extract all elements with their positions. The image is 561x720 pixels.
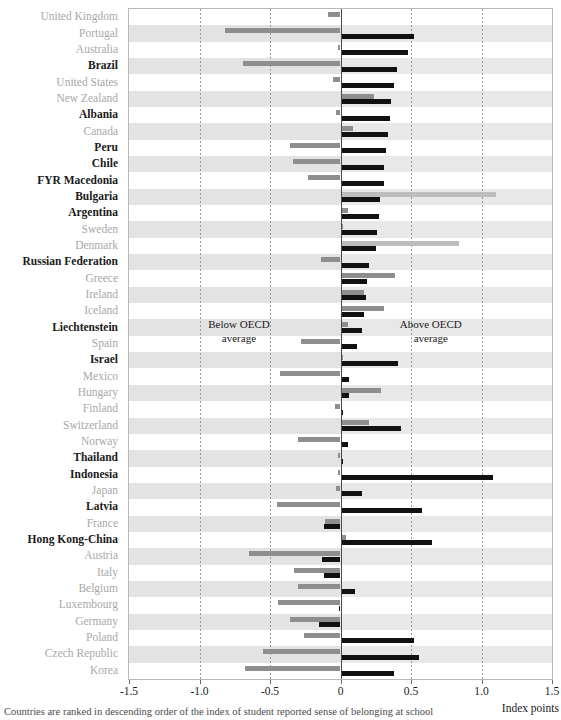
bar-black bbox=[322, 557, 340, 562]
bar-grey bbox=[225, 28, 341, 33]
bar-grey bbox=[293, 159, 341, 164]
bar-black bbox=[341, 279, 368, 284]
bar-grey bbox=[325, 519, 341, 524]
axis-tick-label: 1.5 bbox=[545, 685, 559, 697]
bar-grey bbox=[280, 371, 341, 376]
category-label: Japan bbox=[92, 482, 118, 498]
row-band-right bbox=[341, 581, 553, 597]
bar-grey bbox=[298, 437, 340, 442]
bar-black bbox=[341, 83, 395, 88]
bar-black bbox=[341, 165, 385, 170]
category-label: Finland bbox=[83, 400, 118, 416]
axis-tick-label: -1.5 bbox=[120, 685, 138, 697]
category-label: Chile bbox=[92, 155, 118, 171]
bar-black bbox=[341, 312, 365, 317]
bar-black bbox=[341, 181, 385, 186]
bar-grey bbox=[341, 306, 385, 311]
category-label: Korea bbox=[90, 662, 118, 678]
category-label: Hong Kong-China bbox=[28, 531, 118, 547]
axis-tick-label: 0 bbox=[338, 685, 344, 697]
row-band-right bbox=[341, 614, 553, 630]
category-label: Mexico bbox=[83, 368, 118, 384]
bar-grey bbox=[308, 175, 340, 180]
bar-grey bbox=[321, 257, 341, 262]
chart-container: United KingdomPortugalAustraliaBrazilUni… bbox=[0, 0, 561, 720]
bar-black bbox=[341, 50, 409, 55]
annotation-line-1: Above OECD bbox=[400, 318, 462, 330]
zero-reference-line bbox=[341, 9, 343, 679]
category-label: Portugal bbox=[79, 25, 118, 41]
chart-top-title bbox=[0, 0, 561, 4]
category-label: Sweden bbox=[82, 221, 118, 237]
bar-black bbox=[324, 524, 341, 529]
bar-black bbox=[324, 573, 341, 578]
bar-grey bbox=[243, 61, 340, 66]
bar-black bbox=[341, 132, 389, 137]
axis-tick bbox=[341, 680, 342, 684]
category-label: Luxembourg bbox=[59, 596, 118, 612]
axis-tick-label: -0.5 bbox=[261, 685, 279, 697]
row-band-right bbox=[341, 450, 553, 466]
annotation-above-average: Above OECDaverage bbox=[383, 317, 479, 345]
bar-grey bbox=[341, 290, 365, 295]
bar-black bbox=[341, 589, 355, 594]
bar-grey bbox=[341, 126, 354, 131]
gridline bbox=[482, 9, 483, 679]
category-label: Peru bbox=[94, 139, 118, 155]
bar-black bbox=[341, 246, 376, 251]
bar-grey bbox=[298, 584, 340, 589]
bar-grey bbox=[301, 339, 340, 344]
category-label: Hungary bbox=[78, 384, 118, 400]
bar-black bbox=[341, 361, 399, 366]
bar-black bbox=[341, 426, 402, 431]
bar-black bbox=[341, 508, 423, 513]
bar-black bbox=[341, 491, 362, 496]
bar-grey bbox=[277, 502, 340, 507]
bar-black bbox=[341, 148, 386, 153]
bar-black bbox=[341, 671, 395, 676]
bar-grey bbox=[263, 649, 341, 654]
category-label: Brazil bbox=[88, 57, 118, 73]
bar-grey bbox=[333, 77, 340, 82]
axis-tick-label: 0.5 bbox=[404, 685, 418, 697]
bar-grey bbox=[341, 192, 496, 197]
annotation-line-2: average bbox=[414, 332, 448, 344]
category-label: Australia bbox=[76, 41, 118, 57]
axis-tick bbox=[482, 680, 483, 684]
category-label: Iceland bbox=[84, 302, 118, 318]
category-label: Canada bbox=[84, 123, 118, 139]
category-label: Argentina bbox=[68, 204, 118, 220]
category-label: Austria bbox=[84, 547, 118, 563]
bar-grey bbox=[304, 633, 341, 638]
bar-grey bbox=[290, 617, 341, 622]
bar-black bbox=[341, 34, 414, 39]
category-label: Bulgaria bbox=[75, 188, 118, 204]
row-band-right bbox=[341, 548, 553, 564]
row-band-right bbox=[341, 516, 553, 532]
bar-grey bbox=[249, 551, 341, 556]
bar-black bbox=[319, 622, 340, 627]
row-band-right bbox=[341, 483, 553, 499]
plot-area: Below OECDaverage Above OECDaverage bbox=[128, 8, 553, 680]
category-label: Russian Federation bbox=[22, 253, 118, 269]
axis-tick-label: 1.0 bbox=[474, 685, 488, 697]
category-label: Czech Republic bbox=[45, 645, 118, 661]
axis-tick bbox=[270, 680, 271, 684]
bar-black bbox=[341, 263, 369, 268]
bar-black bbox=[341, 230, 378, 235]
category-label: Switzerland bbox=[63, 417, 118, 433]
value-axis: -1.5-1.0-0.500.51.01.5 bbox=[128, 680, 553, 704]
category-label: Thailand bbox=[73, 449, 118, 465]
axis-tick bbox=[552, 680, 553, 684]
category-label: New Zealand bbox=[56, 90, 118, 106]
category-label: United States bbox=[56, 74, 118, 90]
bar-grey bbox=[341, 94, 375, 99]
category-label: Albania bbox=[79, 106, 118, 122]
bar-grey bbox=[278, 600, 340, 605]
category-label: Spain bbox=[92, 335, 118, 351]
category-label: Italy bbox=[97, 564, 118, 580]
bar-grey bbox=[294, 568, 341, 573]
category-label: Greece bbox=[85, 270, 118, 286]
category-label: Indonesia bbox=[70, 466, 118, 482]
bar-black bbox=[341, 328, 362, 333]
